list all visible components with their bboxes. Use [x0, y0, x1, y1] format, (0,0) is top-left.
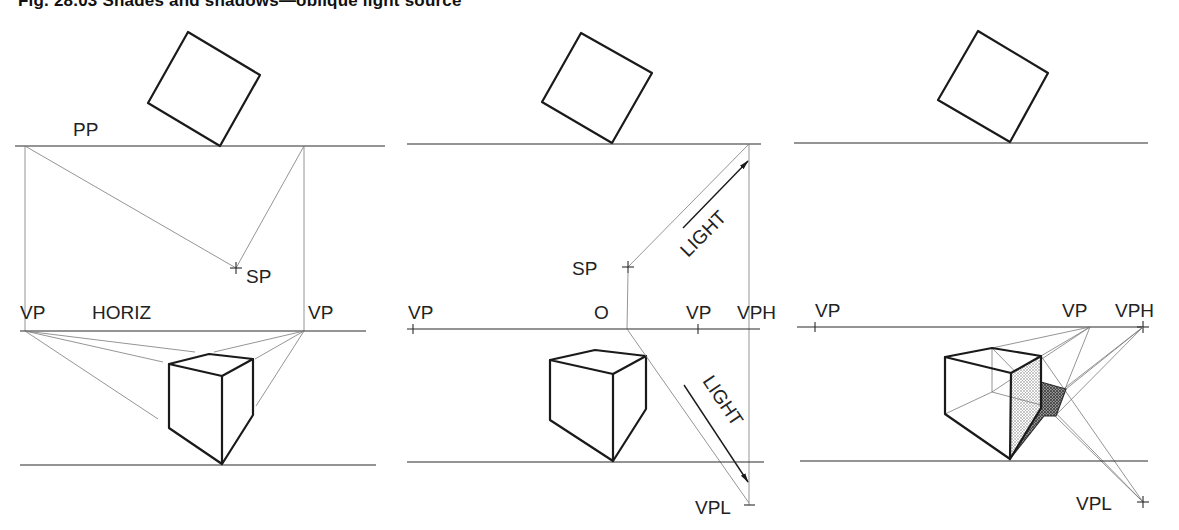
label-light-upper: LIGHT [676, 206, 731, 261]
label-vph: VPH [737, 302, 776, 323]
vp-construction-line [25, 331, 163, 362]
vp-construction-line [255, 331, 304, 359]
label-vp-left: VP [815, 300, 840, 321]
cube-perspective [169, 354, 253, 464]
perspective-shadow-diagram: PP SP VP HORIZ VP [0, 0, 1179, 530]
sight-line-right [236, 146, 304, 268]
vp-construction-line [256, 331, 304, 406]
label-vp-right: VP [308, 302, 333, 323]
label-vp-right: VP [1062, 300, 1087, 321]
label-vph: VPH [1115, 300, 1154, 321]
station-point-marker [230, 262, 242, 274]
panel-2: LIGHT SP VP O VP VPH LIGHT [407, 33, 776, 518]
vpl-construction-line [1041, 356, 1143, 502]
label-origin: O [594, 302, 609, 323]
label-horiz: HORIZ [92, 302, 152, 323]
plan-square [148, 32, 260, 146]
label-vp-left: VP [20, 302, 45, 323]
vp-construction-line [25, 331, 158, 419]
vp-construction-line [1041, 327, 1090, 356]
plan-square [938, 31, 1048, 142]
vp-construction-line [992, 327, 1090, 348]
label-sp: SP [246, 266, 271, 287]
panel-3: VP VP VPH [794, 31, 1154, 514]
panel-1: PP SP VP HORIZ VP [15, 32, 385, 465]
label-vp-left: VP [408, 302, 433, 323]
vp-construction-line [25, 331, 195, 352]
label-sp: SP [572, 258, 597, 279]
sp-drop-line [627, 273, 628, 329]
cube-perspective [550, 350, 646, 461]
label-vp-right: VP [686, 302, 711, 323]
sight-line-left [25, 146, 236, 268]
plan-square [542, 33, 652, 143]
label-light-lower: LIGHT [699, 371, 748, 429]
vp-construction-line [214, 331, 304, 352]
label-vpl: VPL [1076, 493, 1112, 514]
label-vpl: VPL [695, 497, 731, 518]
label-pp: PP [73, 119, 98, 140]
